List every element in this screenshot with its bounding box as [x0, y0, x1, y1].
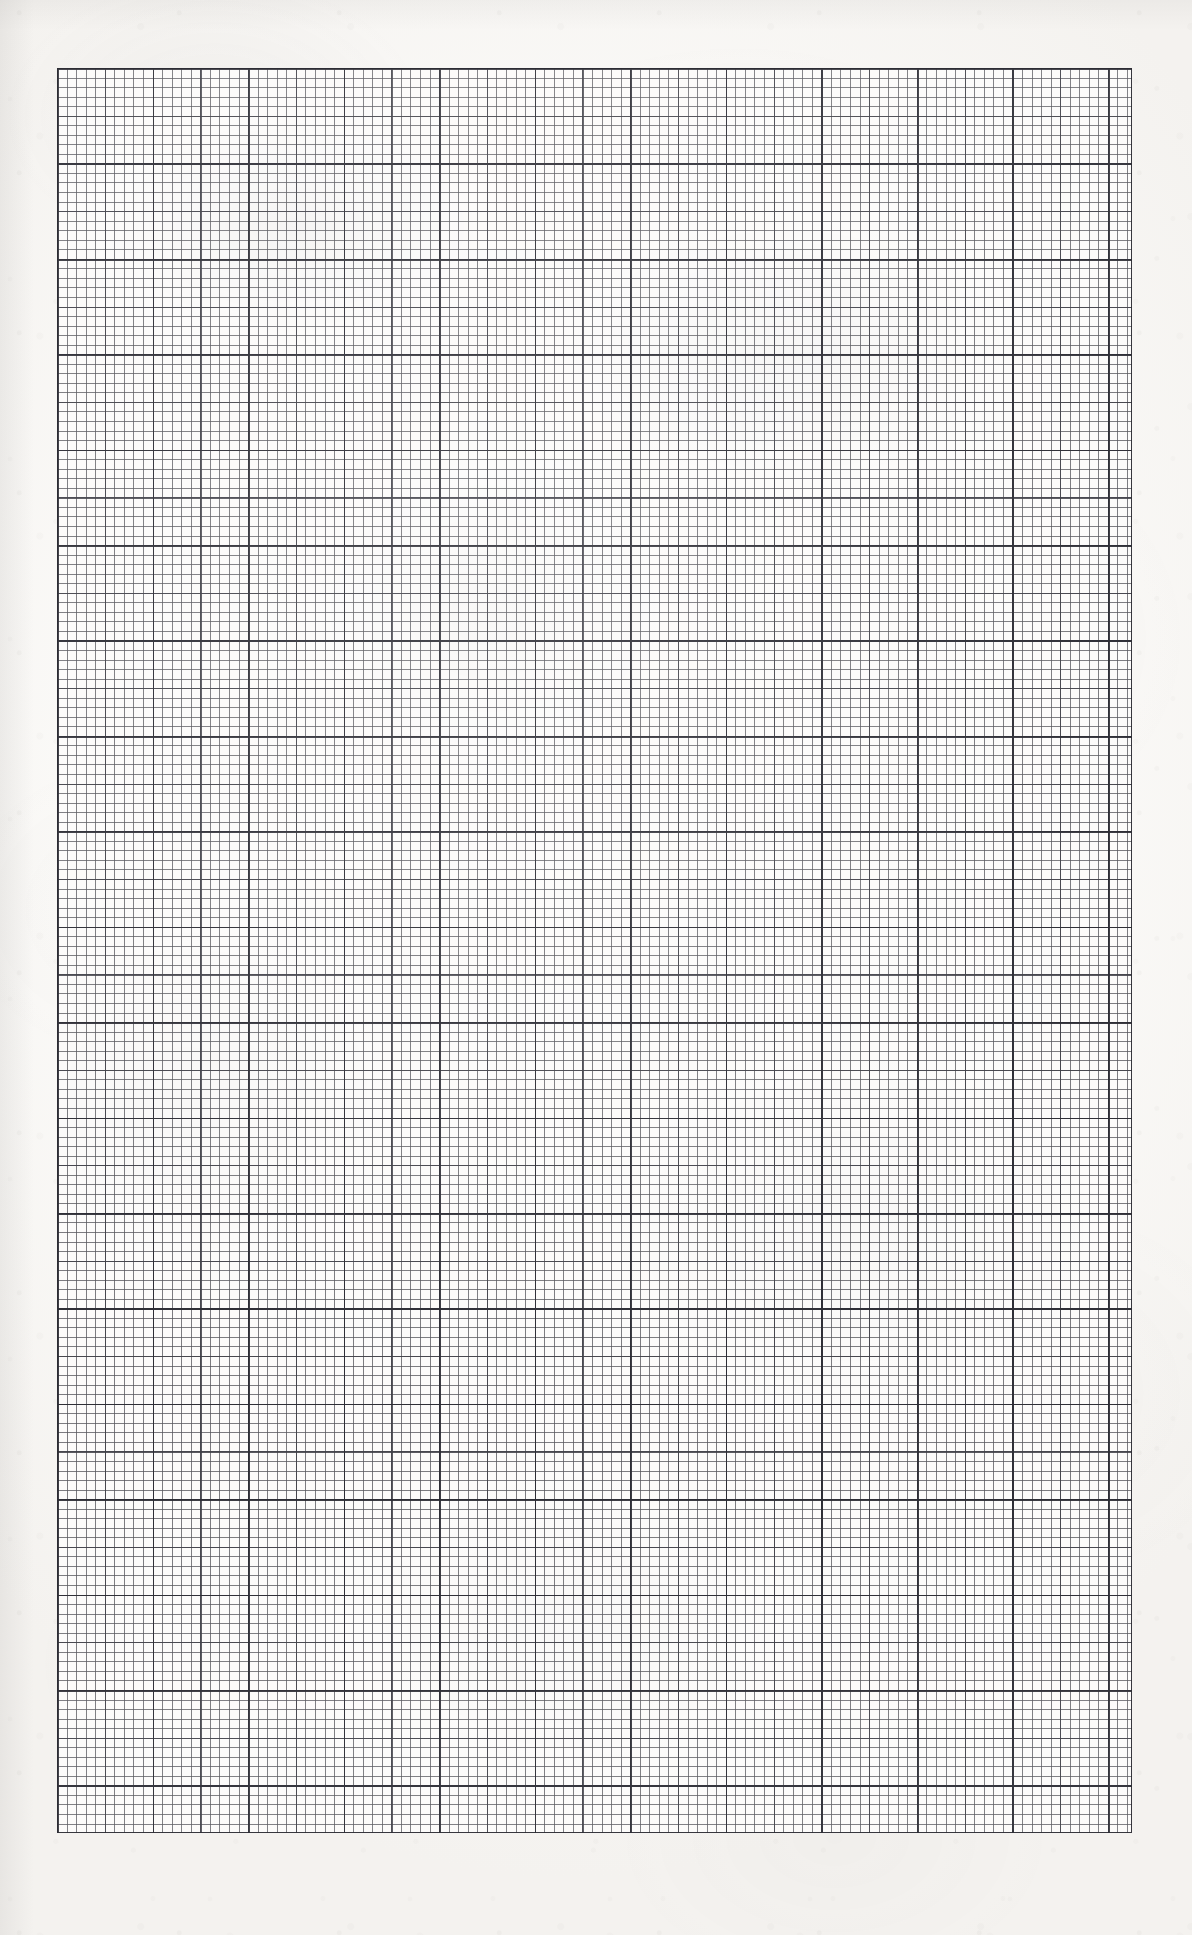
grid-major-lines — [57, 68, 1132, 1833]
graph-grid-area — [57, 68, 1132, 1833]
grid-medium-lines — [57, 68, 1132, 1833]
grid-outer-border — [57, 68, 1132, 1833]
graph-paper-page — [0, 0, 1192, 1935]
grid-scan-mottle — [57, 68, 1132, 1833]
grid-ink-variation — [57, 68, 1132, 1833]
grid-fine-lines — [57, 68, 1132, 1833]
